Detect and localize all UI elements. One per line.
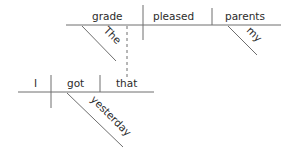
word-got: got <box>67 77 84 89</box>
word-pleased: pleased <box>153 10 194 22</box>
word-my: my <box>245 24 265 44</box>
word-that: that <box>116 77 137 89</box>
word-the: The <box>101 23 124 46</box>
sentence-diagram: grade pleased parents The my I got that … <box>0 0 294 156</box>
word-yesterday: yesterday <box>89 93 134 138</box>
word-i: I <box>34 77 37 89</box>
word-grade: grade <box>92 10 123 22</box>
word-parents: parents <box>225 10 265 22</box>
